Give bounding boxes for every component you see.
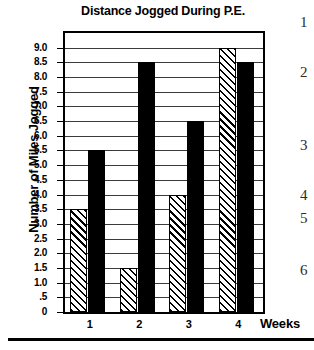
bar-hatched-week-3 bbox=[169, 195, 186, 312]
side-list-number: 5 bbox=[300, 210, 308, 227]
bar-solid-week-3 bbox=[187, 121, 204, 312]
side-list-number: 1 bbox=[300, 14, 308, 31]
chart-page: Distance Jogged During P.E. Number of Mi… bbox=[0, 0, 314, 350]
bar-hatched-week-1 bbox=[70, 209, 87, 312]
x-axis-tick-label-week-3: 3 bbox=[164, 318, 214, 330]
y-axis-tick-label: 5.5 bbox=[5, 145, 47, 155]
plot-area bbox=[63, 31, 265, 314]
bar-solid-week-4 bbox=[237, 62, 254, 312]
x-axis-tick-label-week-1: 1 bbox=[65, 318, 115, 330]
y-axis-tick-label: 1.5 bbox=[5, 263, 47, 273]
y-axis-tick-label: 8.0 bbox=[5, 72, 47, 82]
y-axis-tick-label: 4.0 bbox=[5, 190, 47, 200]
bar-solid-week-1 bbox=[88, 150, 105, 312]
y-axis-tick-label: 2.5 bbox=[5, 234, 47, 244]
bar-solid-week-2 bbox=[138, 62, 155, 312]
x-axis-title: Weeks bbox=[260, 316, 300, 331]
bottom-rule bbox=[8, 338, 314, 341]
y-axis-tick-label: 7.0 bbox=[5, 101, 47, 111]
side-list-number: 2 bbox=[300, 64, 308, 81]
y-axis-tick-label: 5.0 bbox=[5, 160, 47, 170]
x-axis-tick-label-week-4: 4 bbox=[214, 318, 264, 330]
y-axis-tick-label: 6.5 bbox=[5, 116, 47, 126]
side-list-number: 6 bbox=[300, 262, 308, 279]
y-axis-tick-label: 4.5 bbox=[5, 175, 47, 185]
bars-container bbox=[65, 33, 263, 312]
y-axis-tick-label: 6.0 bbox=[5, 131, 47, 141]
y-axis-tick-label: 8.5 bbox=[5, 57, 47, 67]
y-axis-tick-label: 7.5 bbox=[5, 87, 47, 97]
side-list-number: 3 bbox=[300, 137, 308, 154]
y-axis-tick-label: .5 bbox=[5, 292, 47, 302]
y-axis-tick-label: 2.0 bbox=[5, 248, 47, 258]
y-axis-tick-label: 0 bbox=[5, 307, 47, 317]
x-axis-tick-label-week-2: 2 bbox=[115, 318, 165, 330]
y-axis-tick-label: 1.0 bbox=[5, 278, 47, 288]
side-list-number: 4 bbox=[300, 187, 308, 204]
y-axis-tick-label: 3.0 bbox=[5, 219, 47, 229]
bar-hatched-week-4 bbox=[219, 48, 236, 312]
chart-title: Distance Jogged During P.E. bbox=[58, 4, 268, 18]
y-axis-tick-label: 3.5 bbox=[5, 204, 47, 214]
y-axis-tick-label: 9.0 bbox=[5, 43, 47, 53]
bar-hatched-week-2 bbox=[120, 268, 137, 312]
